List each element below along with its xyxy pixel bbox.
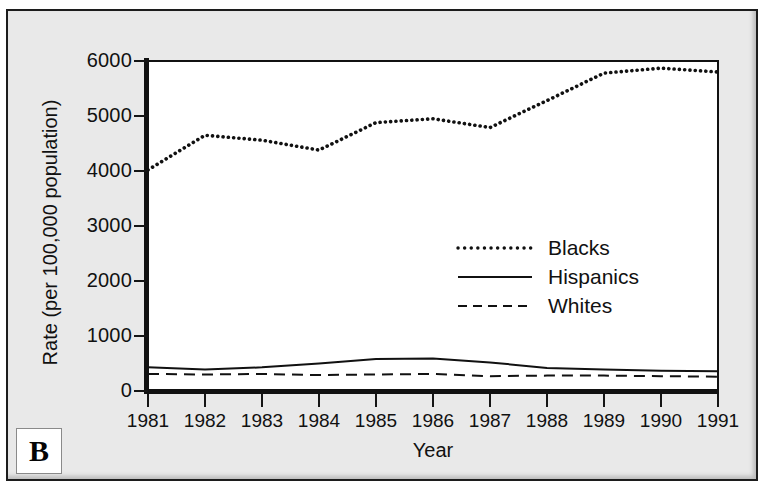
y-axis-labels: 6000500040003000200010000 (54, 11, 132, 479)
data-series-layer (148, 61, 718, 391)
y-axis-tick (134, 335, 148, 337)
y-axis-tick-label: 0 (62, 380, 132, 400)
y-axis-tick (134, 115, 148, 117)
chart-legend: BlacksHispanicsWhites (456, 233, 676, 320)
legend-swatch-solid-icon (456, 270, 534, 284)
y-axis-tick (134, 225, 148, 227)
legend-item-hispanics: Hispanics (456, 262, 676, 291)
legend-label: Hispanics (534, 265, 639, 289)
x-axis-tick-label: 1983 (232, 410, 292, 432)
series-line-whites (148, 374, 718, 377)
y-axis-tick-label: 3000 (62, 215, 132, 235)
figure-panel-b: 6000500040003000200010000 19811982198319… (0, 0, 771, 492)
panel-letter: B (29, 434, 49, 468)
y-axis-tick (134, 390, 148, 392)
legend-label: Blacks (534, 236, 610, 260)
y-axis-title: Rate (per 100,000 population) (39, 63, 62, 403)
x-axis-tick-label: 1986 (403, 410, 463, 432)
legend-label: Whites (534, 294, 612, 318)
series-line-hispanics (148, 359, 718, 372)
x-axis-tick (204, 394, 206, 407)
x-axis-tick (660, 394, 662, 407)
x-axis-tick (717, 394, 719, 407)
legend-item-blacks: Blacks (456, 233, 676, 262)
x-axis-tick-label: 1991 (688, 410, 748, 432)
x-axis-tick (375, 394, 377, 407)
y-axis-tick (134, 60, 148, 62)
x-axis-tick (489, 394, 491, 407)
y-axis-tick-label: 1000 (62, 325, 132, 345)
x-axis-tick-label: 1987 (460, 410, 520, 432)
y-axis-tick-label: 4000 (62, 160, 132, 180)
x-axis-tick (546, 394, 548, 407)
x-axis-tick-label: 1990 (631, 410, 691, 432)
y-axis-tick-label: 2000 (62, 270, 132, 290)
x-axis-tick (147, 394, 149, 407)
y-axis-tick (134, 280, 148, 282)
legend-item-whites: Whites (456, 291, 676, 320)
x-axis-tick-label: 1984 (289, 410, 349, 432)
y-axis-tick-label: 6000 (62, 50, 132, 70)
x-axis-title: Year (148, 439, 718, 462)
x-axis-tick-label: 1985 (346, 410, 406, 432)
series-line-blacks (148, 68, 718, 170)
panel-letter-box: B (16, 428, 62, 474)
x-axis-tick (261, 394, 263, 407)
y-axis-tick-label: 5000 (62, 105, 132, 125)
x-axis-tick (603, 394, 605, 407)
legend-swatch-dashed-icon (456, 299, 534, 313)
legend-swatch-dotted-icon (456, 241, 534, 255)
x-axis-tick (318, 394, 320, 407)
x-axis-tick-label: 1982 (175, 410, 235, 432)
x-axis-tick (432, 394, 434, 407)
y-axis-tick (134, 170, 148, 172)
x-axis-tick-label: 1988 (517, 410, 577, 432)
x-axis-tick-label: 1989 (574, 410, 634, 432)
x-axis-tick-label: 1981 (118, 410, 178, 432)
chart-panel: 6000500040003000200010000 19811982198319… (6, 9, 758, 481)
